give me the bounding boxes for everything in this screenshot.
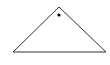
dot-marker [57, 13, 60, 16]
diagram-canvas [0, 0, 110, 65]
